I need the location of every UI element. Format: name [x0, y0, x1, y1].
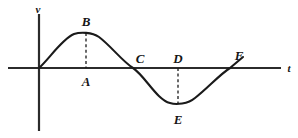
point-label-d: D [172, 51, 183, 66]
x-axis-label: t [287, 62, 291, 74]
y-axis-label: v [36, 3, 41, 15]
point-label-c: C [136, 51, 145, 66]
point-label-a: A [81, 74, 91, 89]
point-label-e: E [173, 112, 183, 127]
figure-canvas: B A C D E F v t [0, 0, 298, 138]
sine-wave-figure: B A C D E F v t [0, 0, 298, 138]
point-label-b: B [81, 14, 91, 29]
point-label-f: F [234, 48, 244, 63]
